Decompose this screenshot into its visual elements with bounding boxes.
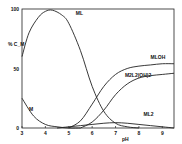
x-axis-label: pH <box>122 136 129 142</box>
x-tick-label: 4 <box>44 130 47 136</box>
x-tick-label: 8 <box>138 130 141 136</box>
y-tick-label: 50 <box>13 66 19 72</box>
series-line-ml <box>22 10 139 128</box>
x-tick-label: 3 <box>21 130 24 136</box>
chart: 3456789050100 % C_M pH MMLMLOHM2L2(OH)2M… <box>0 0 182 144</box>
annotation-ml2: ML2 <box>144 111 154 117</box>
x-tick-label: 7 <box>114 130 117 136</box>
annotation-m: M <box>29 106 33 112</box>
annotation-mloh: MLOH <box>151 54 166 60</box>
x-tick-label: 5 <box>67 130 70 136</box>
annotation-ml: ML <box>76 10 83 16</box>
y-tick-label: 100 <box>11 6 20 12</box>
series-line-m <box>22 98 80 128</box>
annotation-m2l2-oh-2: M2L2(OH)2 <box>125 72 152 78</box>
x-tick-label: 9 <box>161 130 164 136</box>
series-line-mloh <box>69 64 174 128</box>
y-axis-label: % C_M <box>8 41 24 47</box>
x-tick-label: 6 <box>91 130 94 136</box>
y-tick-label: 0 <box>16 125 19 131</box>
